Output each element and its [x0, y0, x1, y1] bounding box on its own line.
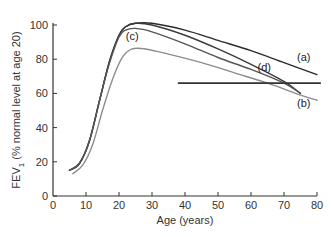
y-tick-label: 100 [30, 19, 48, 31]
x-tick-label: 0 [50, 199, 56, 211]
x-tick-label: 60 [245, 199, 257, 211]
y-tick-label: 20 [36, 156, 48, 168]
y-tick-label: 80 [36, 53, 48, 65]
x-tick-label: 80 [311, 199, 323, 211]
y-tick-label: 60 [36, 87, 48, 99]
y-axis-title-main: FEV [10, 167, 22, 189]
fev1-chart: 020406080100 01020304050607080 (a)(b)(c)… [0, 0, 331, 237]
series-lines [70, 23, 321, 174]
x-axis-title: Age (years) [157, 214, 214, 226]
x-tick-label: 20 [113, 199, 125, 211]
y-axis: 020406080100 [30, 19, 57, 202]
y-axis-title-rest: (% normal level at age 20) [10, 31, 22, 162]
curve-label-a: (a) [297, 51, 310, 63]
x-tick-label: 10 [80, 199, 92, 211]
x-tick-label: 30 [146, 199, 158, 211]
curve-label-c: (c) [126, 30, 139, 42]
x-axis: 01020304050607080 [50, 192, 323, 211]
curve-d [70, 23, 301, 170]
curve-b [73, 48, 317, 174]
y-tick-label: 40 [36, 122, 48, 134]
curve-labels: (a)(b)(c)(d) [126, 30, 311, 109]
curve-c [70, 28, 301, 170]
x-tick-label: 70 [278, 199, 290, 211]
y-tick-label: 0 [42, 190, 48, 202]
curve-label-d: (d) [257, 61, 270, 73]
y-axis-title: FEV1 (% normal level at age 20) [10, 31, 26, 188]
curve-label-b: (b) [297, 97, 310, 109]
x-tick-label: 50 [212, 199, 224, 211]
x-tick-label: 40 [179, 199, 191, 211]
